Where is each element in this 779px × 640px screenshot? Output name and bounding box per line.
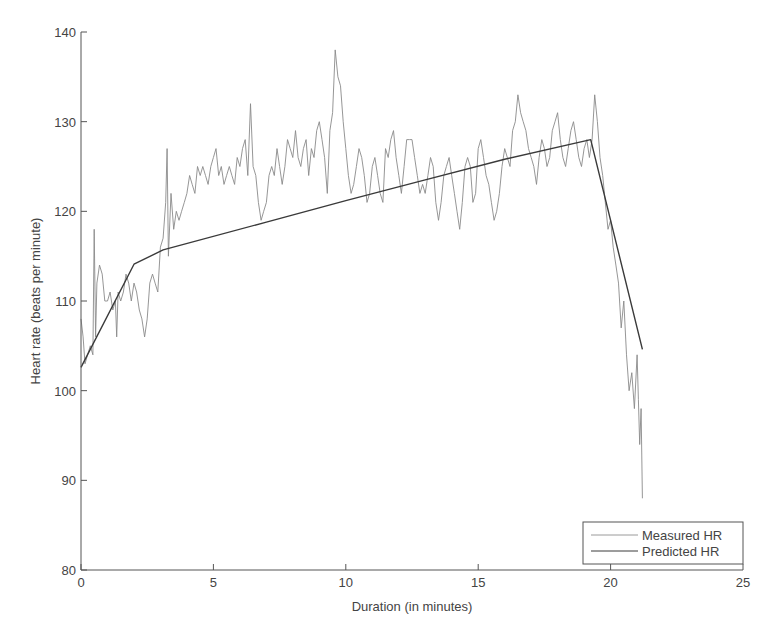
x-axis-label: Duration (in minutes) [352, 599, 473, 614]
axes: 0510152025 8090100110120130140 [54, 25, 750, 590]
y-tick-label: 100 [54, 384, 76, 399]
plot-area [81, 50, 642, 498]
x-tick-label: 10 [339, 575, 353, 590]
y-ticks: 8090100110120130140 [54, 25, 87, 578]
y-tick-label: 130 [54, 115, 76, 130]
y-tick-label: 140 [54, 25, 76, 40]
heart-rate-chart: 0510152025 8090100110120130140 Duration … [0, 0, 779, 640]
x-ticks: 0510152025 [77, 564, 750, 590]
measured-hr-line [81, 50, 642, 498]
legend-label-measured: Measured HR [642, 528, 722, 543]
x-tick-label: 0 [77, 575, 84, 590]
legend-label-predicted: Predicted HR [642, 544, 719, 559]
y-tick-label: 120 [54, 204, 76, 219]
legend: Measured HR Predicted HR [583, 522, 743, 564]
x-tick-label: 5 [210, 575, 217, 590]
predicted-hr-line [81, 140, 642, 368]
y-tick-label: 110 [55, 294, 76, 309]
y-axis-label: Heart rate (beats per minute) [28, 218, 43, 385]
x-tick-label: 20 [603, 575, 617, 590]
y-tick-label: 90 [62, 473, 76, 488]
x-tick-label: 15 [471, 575, 485, 590]
y-tick-label: 80 [62, 563, 76, 578]
x-tick-label: 25 [736, 575, 750, 590]
